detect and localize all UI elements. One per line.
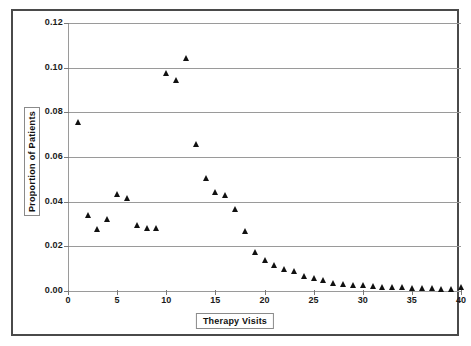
data-point-marker <box>114 191 120 197</box>
gridline <box>68 23 461 24</box>
data-point-marker <box>399 284 405 290</box>
y-axis-tick-label: 0.08 <box>45 106 63 116</box>
data-point-marker <box>429 285 435 291</box>
data-point-marker <box>163 70 169 76</box>
data-point-marker <box>419 285 425 291</box>
x-axis-tick-labels: 0510152025303540 <box>68 295 461 311</box>
y-axis-tick-label: 0.12 <box>45 17 63 27</box>
data-point-marker <box>379 284 385 290</box>
data-point-marker <box>350 282 356 288</box>
data-point-marker <box>94 226 100 232</box>
data-point-marker <box>311 275 317 281</box>
data-point-marker <box>340 281 346 287</box>
data-point-marker <box>389 284 395 290</box>
data-point-marker <box>458 284 464 290</box>
x-axis-tick-label: 40 <box>456 295 466 305</box>
data-point-marker <box>85 212 91 218</box>
data-point-marker <box>242 228 248 234</box>
data-point-marker <box>124 195 130 201</box>
data-point-marker <box>262 257 268 263</box>
x-axis-tick-label: 35 <box>407 295 417 305</box>
y-axis-tick <box>64 246 69 247</box>
y-axis-tick <box>64 68 69 69</box>
data-point-marker <box>301 273 307 279</box>
data-point-marker <box>330 280 336 286</box>
data-point-marker <box>252 249 258 255</box>
data-point-marker <box>203 175 209 181</box>
data-point-marker <box>271 262 277 268</box>
data-point-marker <box>360 282 366 288</box>
x-axis-tick-label: 15 <box>210 295 220 305</box>
y-axis-tick-label: 0.06 <box>45 151 63 161</box>
x-axis-tick-label: 25 <box>309 295 319 305</box>
data-point-marker <box>153 225 159 231</box>
data-point-marker <box>193 141 199 147</box>
data-point-marker <box>222 192 228 198</box>
x-axis-title: Therapy Visits <box>196 313 274 329</box>
gridline <box>68 68 461 69</box>
y-axis-tick-label: 0.10 <box>45 62 63 72</box>
y-axis-tick-labels: 0.000.020.040.060.080.100.12 <box>21 23 63 291</box>
x-axis-tick-label: 10 <box>161 295 171 305</box>
y-axis-tick-label: 0.04 <box>45 196 63 206</box>
plot-area <box>68 23 461 291</box>
chart-frame: Proportion of Patients 0.000.020.040.060… <box>11 9 459 336</box>
y-axis-tick-label: 0.02 <box>45 240 63 250</box>
data-point-marker <box>144 225 150 231</box>
gridline <box>68 246 461 247</box>
y-axis-tick <box>64 157 69 158</box>
y-axis-tick <box>64 23 69 24</box>
data-point-marker <box>75 119 81 125</box>
data-point-marker <box>438 286 444 292</box>
gridline <box>68 202 461 203</box>
y-axis-tick <box>64 112 69 113</box>
data-point-marker <box>232 206 238 212</box>
y-axis-tick <box>64 202 69 203</box>
data-point-marker <box>281 266 287 272</box>
data-point-marker <box>173 77 179 83</box>
y-axis-tick-label: 0.00 <box>45 285 63 295</box>
data-point-marker <box>212 189 218 195</box>
x-axis-tick-label: 0 <box>65 295 70 305</box>
data-point-marker <box>183 55 189 61</box>
data-point-marker <box>409 285 415 291</box>
data-point-marker <box>104 216 110 222</box>
data-point-marker <box>291 268 297 274</box>
data-point-marker <box>134 222 140 228</box>
gridline <box>68 157 461 158</box>
x-axis-tick-label: 20 <box>259 295 269 305</box>
gridline <box>68 112 461 113</box>
data-point-marker <box>320 277 326 283</box>
data-point-marker <box>448 286 454 292</box>
x-axis-tick-label: 30 <box>358 295 368 305</box>
data-point-marker <box>370 283 376 289</box>
x-axis-tick-label: 5 <box>115 295 120 305</box>
